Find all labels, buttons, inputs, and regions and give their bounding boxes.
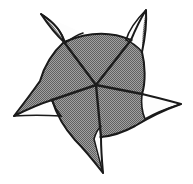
center-vertex bbox=[94, 83, 98, 87]
vertex-bottom-left bbox=[50, 98, 53, 101]
vertex-top-left bbox=[62, 40, 65, 43]
vertex-right bbox=[140, 92, 143, 95]
vertex-top-right bbox=[129, 38, 132, 41]
pinwheel-figure-svg bbox=[0, 0, 193, 184]
figure-canvas: Five-armed curved pinwheel polygon geome… bbox=[0, 0, 193, 184]
vertex-bottom bbox=[99, 135, 102, 138]
